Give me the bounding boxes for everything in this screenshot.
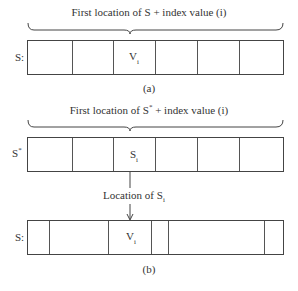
brace-a	[28, 23, 283, 34]
cell-divider	[168, 221, 169, 254]
cell-divider	[49, 221, 50, 254]
array-label-s: S:	[15, 51, 24, 63]
index-array-s-star: Si	[27, 137, 284, 172]
cell-divider	[155, 41, 156, 74]
cell-value-vi-b: Vi	[126, 230, 136, 245]
cell-divider	[72, 138, 73, 171]
brace-b	[28, 120, 283, 131]
brace-label-b: First location of S* + index value (i)	[0, 103, 298, 116]
cell-divider	[197, 138, 198, 171]
cell-divider	[151, 221, 152, 254]
caption-b: (b)	[0, 263, 298, 275]
cell-divider	[113, 41, 114, 74]
pointer-label: Location of Si	[103, 189, 165, 204]
cell-index-si: Si	[130, 148, 138, 163]
cell-divider	[72, 41, 73, 74]
cell-divider	[264, 221, 265, 254]
cell-divider	[113, 138, 114, 171]
brace-label-a: First location of S + index value (i)	[0, 6, 298, 18]
cell-divider	[239, 138, 240, 171]
array-s-b: Vi	[27, 220, 284, 255]
index-array-label: S*	[12, 146, 22, 159]
caption-a: (a)	[0, 82, 298, 94]
cell-divider	[155, 138, 156, 171]
cell-value-vi: Vi	[129, 50, 139, 65]
cell-divider	[108, 221, 109, 254]
cell-divider	[239, 41, 240, 74]
array-s-a: Vi	[27, 40, 284, 75]
array-label-s-b: S:	[15, 231, 24, 243]
cell-divider	[197, 41, 198, 74]
